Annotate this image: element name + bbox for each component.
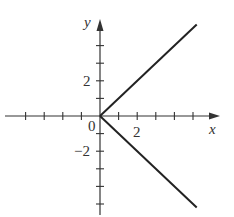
chart: x y 0 2 2 −2 (0, 0, 234, 217)
x-axis-label: x (208, 121, 216, 137)
y-tick-label-2: 2 (83, 73, 91, 89)
y-axis-label: y (82, 14, 91, 30)
x-axis-arrow-icon (209, 113, 220, 120)
origin-label: 0 (88, 118, 96, 134)
y-tick-label-neg2: −2 (74, 143, 90, 159)
x-tick-label-2: 2 (133, 124, 141, 140)
line-series (100, 116, 197, 208)
y-axis-arrow-icon (97, 19, 104, 31)
line-series (100, 24, 197, 116)
